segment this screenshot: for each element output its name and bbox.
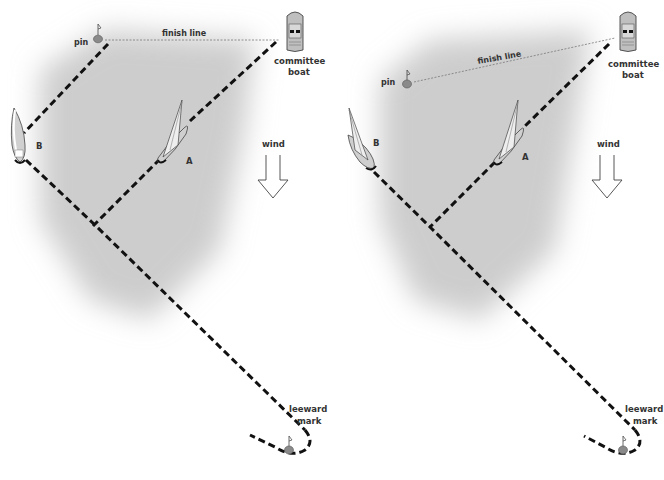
leeward-rounding-path xyxy=(250,430,310,453)
leeward-mark-icon xyxy=(285,436,294,454)
diagram-left: finish line pin committee boat xyxy=(11,12,327,454)
committee-boat-label-2: boat xyxy=(622,70,644,80)
committee-boat-label-1: committee xyxy=(274,56,325,66)
pin-label: pin xyxy=(74,38,88,47)
wind-label: wind xyxy=(597,139,620,149)
leeward-mark-label-2: mark xyxy=(633,416,658,426)
boat-b-label: B xyxy=(373,138,379,148)
committee-boat-label-2: boat xyxy=(288,67,310,77)
boat-a-label: A xyxy=(522,152,529,162)
committee-boat-icon xyxy=(287,12,303,52)
committee-boat-icon xyxy=(620,12,636,52)
wind-arrow-icon xyxy=(592,155,622,198)
finish-line-label: finish line xyxy=(162,29,207,38)
leeward-mark-label-2: mark xyxy=(297,416,322,426)
leeward-mark-label-1: leeward xyxy=(625,404,663,414)
boat-b-label: B xyxy=(36,141,42,151)
sailing-finish-diagram: finish line pin committee boat xyxy=(0,0,664,480)
boat-b-icon xyxy=(11,108,25,163)
wind-arrow-icon xyxy=(258,155,288,198)
wind-label: wind xyxy=(262,139,285,149)
diagram-right: finish line pin committee boat xyxy=(348,12,663,454)
leeward-mark-label-1: leeward xyxy=(289,404,327,414)
leeward-rounding-path xyxy=(584,430,640,453)
boat-a-label: A xyxy=(186,156,193,166)
pin-label: pin xyxy=(381,78,395,87)
committee-boat-label-1: committee xyxy=(608,59,659,69)
shaded-area xyxy=(380,30,590,320)
boat-b-icon xyxy=(348,108,376,170)
leeward-mark-icon xyxy=(619,436,628,454)
